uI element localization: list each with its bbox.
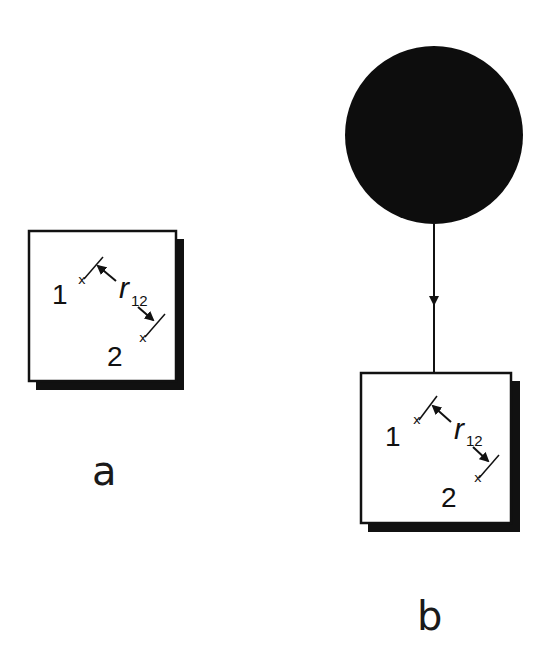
distance-symbol: r (119, 271, 130, 304)
particle-2-label: 2 (441, 482, 457, 513)
distance-subscript: 12 (131, 292, 148, 309)
particle-1-label: 1 (385, 421, 401, 452)
particle-2-point: x (474, 470, 482, 485)
connector-arrowhead (429, 296, 439, 306)
particle-2-label: 2 (107, 341, 123, 372)
panel-a: 1 x r 12 x 2 a (29, 231, 184, 494)
distance-symbol: r (454, 412, 465, 445)
panel-caption-b: b (417, 593, 442, 639)
particle-box (361, 373, 511, 523)
particle-1-point: x (78, 272, 86, 287)
particle-2-point: x (139, 330, 147, 345)
diagram-canvas: 1 x r 12 x 2 a 1 x (0, 0, 550, 661)
distance-subscript: 12 (466, 432, 483, 449)
particle-1-label: 1 (52, 279, 68, 310)
panel-caption-a: a (92, 448, 117, 494)
source-circle (345, 46, 523, 224)
panel-b: 1 x r 12 x 2 b (345, 46, 523, 639)
